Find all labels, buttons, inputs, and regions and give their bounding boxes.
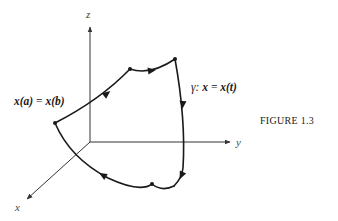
curve-name: γ: [191,81,199,93]
start-end-point [53,121,57,125]
curve-gamma [55,59,184,189]
x-axis [27,142,90,199]
arrow-icon [179,101,187,110]
param-rhs: x(t) [220,81,237,93]
arrow-icon [176,171,186,181]
cusp-point-2 [173,57,177,61]
z-axis-label: z [86,9,90,20]
direction-arrows [97,66,186,180]
closed-point-label: x(a) = x(b) [14,96,65,108]
arrow-icon [97,170,107,180]
parametrization-label: γ: x = x(t) [191,82,237,94]
x-axis-label: x [15,202,20,213]
y-axis-label: y [236,137,241,148]
closed-point-rhs: x(b) [45,95,64,107]
cusp-point-3 [150,182,154,186]
figure-caption: FIGURE 1.3 [260,116,314,126]
closed-point-eq: = [36,95,43,107]
arrow-icon [148,66,157,74]
curve-points [53,57,177,186]
cusp-point-1 [128,67,132,71]
closed-point-lhs: x(a) [14,95,33,107]
param-eq: = [211,81,218,93]
axes [27,27,230,199]
param-lhs: x [202,81,208,93]
curve-diagram [0,0,338,221]
